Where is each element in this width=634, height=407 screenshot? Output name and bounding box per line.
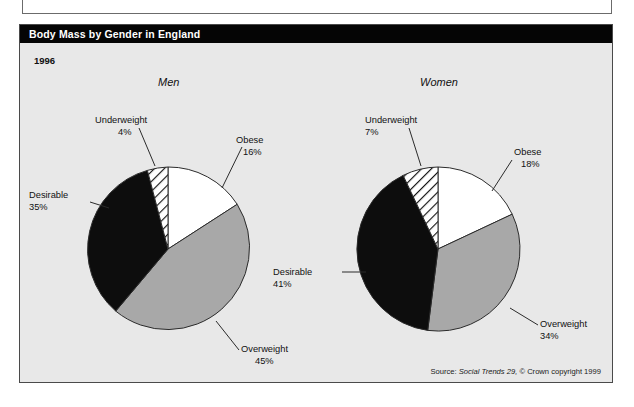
source-publication: Social Trends 29, (459, 367, 518, 376)
women-label-obese-pct: 18% (521, 158, 541, 170)
men-label-desirable: Desirable 35% (29, 189, 68, 213)
men-label-overweight: Overweight 45% (241, 343, 288, 367)
women-leader-obese (492, 160, 512, 191)
pie-charts-canvas (20, 25, 612, 382)
women-label-overweight-pct: 34% (540, 330, 587, 342)
women-label-obese: Obese 18% (514, 146, 541, 170)
women-label-underweight: Underweight 7% (365, 114, 417, 138)
men-leader-overweight (216, 321, 239, 350)
women-label-underweight-name: Underweight (365, 115, 417, 125)
men-label-desirable-name: Desirable (29, 190, 68, 200)
women-leader-overweight (510, 308, 538, 325)
men-label-obese: Obese 16% (236, 134, 263, 158)
women-label-desirable: Desirable 41% (273, 266, 312, 290)
men-label-underweight: Underweight 4% (95, 114, 147, 138)
page-frame-fragment (22, 0, 612, 14)
women-label-overweight-name: Overweight (540, 319, 587, 329)
women-label-underweight-pct: 7% (365, 126, 417, 138)
source-prefix: Source: (430, 367, 456, 376)
men-label-overweight-pct: 45% (255, 355, 288, 367)
women-label-desirable-name: Desirable (273, 267, 312, 277)
men-label-overweight-name: Overweight (241, 344, 288, 354)
women-label-obese-name: Obese (514, 147, 541, 157)
men-label-underweight-pct: 4% (118, 126, 147, 138)
women-label-desirable-pct: 41% (273, 278, 312, 290)
figure-container: Body Mass by Gender in England 1996 Men … (19, 24, 613, 383)
men-label-obese-pct: 16% (243, 146, 263, 158)
men-label-desirable-pct: 35% (29, 201, 68, 213)
men-label-underweight-name: Underweight (95, 115, 147, 125)
source-copyright: © Crown copyright 1999 (519, 367, 601, 376)
source-note: Source: Social Trends 29, © Crown copyri… (430, 367, 601, 376)
men-label-obese-name: Obese (236, 135, 263, 145)
women-label-overweight: Overweight 34% (540, 318, 587, 342)
